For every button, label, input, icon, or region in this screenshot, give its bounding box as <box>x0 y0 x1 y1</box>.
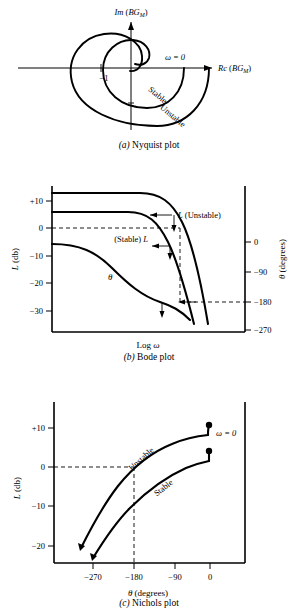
bode-unstable-drop-arrowhead-icon <box>172 225 177 232</box>
nichols-ytick-0: +10 <box>32 423 45 433</box>
nichols-xtick-2: −90 <box>168 572 181 582</box>
nyquist-caption-letter: (a) <box>119 140 130 150</box>
bode-ytick-3: −20 <box>30 278 43 288</box>
nichols-panel: +10 0 −10 −20 −270 −180 −90 0 Unstable S <box>0 398 298 598</box>
nyquist-caption: (a) Nyquist plot <box>0 140 298 150</box>
bode-panel: +10 0 −10 −20 −30 0 −90 −180 −270 L (Uns… <box>0 180 298 355</box>
nichols-xtick-0: −270 <box>84 572 102 582</box>
nichols-caption-letter: (c) <box>119 598 130 608</box>
bode-right-ticks <box>245 242 251 330</box>
nichols-xtick-1: −180 <box>125 572 143 582</box>
nyquist-unstable-curve <box>71 34 209 126</box>
bode-caption-letter: (b) <box>124 352 135 362</box>
nichols-y-axis-label: L (db) <box>12 477 22 500</box>
nichols-ytick-2: −10 <box>32 501 45 511</box>
nyquist-omega-label: ω = 0 <box>165 52 186 62</box>
bode-y-left-axis-label: L (db) <box>10 248 20 271</box>
nichols-x-ticks <box>93 563 210 569</box>
bode-y2tick-3: −270 <box>254 325 272 335</box>
nyquist-panel: −1 ω = 0 Rc (BGM) Im (BGM) Stable Unstab… <box>0 0 298 140</box>
nichols-stable-curve <box>93 461 209 558</box>
nichols-unstable-curve-tail <box>208 426 209 435</box>
nyquist-y-axis-label: Im (BGM) <box>113 7 147 18</box>
nichols-ytick-1: 0 <box>41 462 45 472</box>
bode-ytick-2: −10 <box>30 251 43 261</box>
bode-ytick-1: 0 <box>39 223 43 233</box>
nichols-y-ticks <box>48 428 54 546</box>
bode-y2tick-2: −180 <box>254 297 272 307</box>
bode-unstable-arrowhead-icon <box>150 213 157 218</box>
nichols-svg: +10 0 −10 −20 −270 −180 −90 0 Unstable S <box>0 398 298 598</box>
bode-svg: +10 0 −10 −20 −30 0 −90 −180 −270 L (Uns… <box>0 180 298 355</box>
nichols-caption: (c) Nichols plot <box>0 598 298 608</box>
bode-y-right-axis-label: θ (degrees) <box>277 239 287 279</box>
nyquist-caption-text: Nyquist plot <box>132 140 179 150</box>
nichols-x-axis-label: θ (degrees) <box>128 588 168 598</box>
nyquist-x-arrow-icon <box>204 65 212 71</box>
bode-y2tick-0: 0 <box>254 237 258 247</box>
nichols-stable-label: Stable <box>152 477 175 498</box>
nichols-caption-text: Nichols plot <box>132 598 179 608</box>
bode-phase-arrowhead-icon <box>178 300 185 305</box>
bode-y2tick-1: −90 <box>254 267 267 277</box>
bode-ytick-4: −30 <box>30 306 43 316</box>
nichols-omega-label: ω = 0 <box>216 428 237 438</box>
nichols-ytick-3: −20 <box>32 541 45 551</box>
nyquist-stable-curve <box>103 40 184 108</box>
bode-stable-label: (Stable) L <box>114 234 148 244</box>
bode-ytick-0: +10 <box>30 196 43 206</box>
nyquist-x-axis-label: Rc (BGM) <box>217 63 251 74</box>
bode-unstable-label: L (Unstable) <box>177 210 221 220</box>
bode-x-axis-label: Log ω <box>136 340 159 350</box>
bode-caption: (b) Bode plot <box>0 352 298 362</box>
bode-caption-text: Bode plot <box>137 352 174 362</box>
bode-stable-arrowhead-icon <box>152 244 159 249</box>
bode-left-ticks <box>46 201 52 311</box>
nyquist-y-arrow-icon <box>128 22 134 30</box>
nyquist-svg: −1 ω = 0 Rc (BGM) Im (BGM) Stable Unstab… <box>0 0 298 140</box>
bode-stable-drop-arrowhead-icon <box>168 253 173 260</box>
bode-phase-drop-arrowhead-icon <box>160 311 165 318</box>
nyquist-critical-point-label: −1 <box>99 73 108 83</box>
nichols-unstable-label: Unstable <box>126 445 155 473</box>
bode-theta-label: θ <box>108 272 113 282</box>
nichols-xtick-3: 0 <box>208 572 212 582</box>
